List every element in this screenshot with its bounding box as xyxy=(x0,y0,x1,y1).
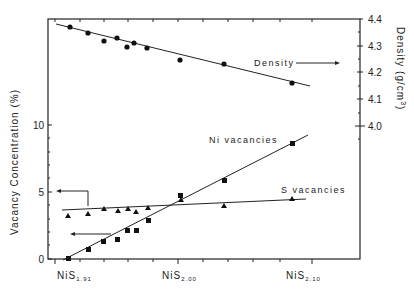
right-tick-4.1: 4.1 xyxy=(368,94,382,105)
left-axis-labels: 0 5 10 xyxy=(33,120,45,265)
x-label-nis-1.91: NiS1.91 xyxy=(57,270,92,282)
ni-vacancies-label: Ni vacancies xyxy=(209,135,278,145)
density-arrow-icon xyxy=(296,61,340,65)
right-tick-4.2: 4.2 xyxy=(368,67,382,78)
plot-frame xyxy=(48,19,360,259)
left-axis-title: Vacancy Concentration (%) xyxy=(9,89,20,235)
vacancy-density-chart: 0 5 10 Vacancy Concentration (%) 4.4 4.3… xyxy=(0,0,414,293)
left-tick-0: 0 xyxy=(38,254,44,265)
density-label: Density xyxy=(254,58,295,68)
x-label-nis-2.00: NiS2.00 xyxy=(162,270,197,282)
right-tick-4.3: 4.3 xyxy=(368,41,382,52)
left-tick-10: 10 xyxy=(33,120,45,131)
x-axis-ticks xyxy=(55,259,312,264)
ni-vacancies-axis-arrow-icon xyxy=(70,232,111,236)
right-tick-4.0: 4.0 xyxy=(368,121,382,132)
s-vacancies-fit-line xyxy=(62,199,306,210)
x-label-nis-2.10: NiS2.10 xyxy=(286,270,321,282)
left-tick-5: 5 xyxy=(38,187,44,198)
ni-vacancies-fit-line xyxy=(63,135,308,260)
density-fit-line xyxy=(56,24,310,86)
x-axis-labels: NiS1.91 NiS2.00 NiS2.10 xyxy=(57,270,321,282)
right-tick-4.4: 4.4 xyxy=(368,14,382,25)
s-vacancies-points xyxy=(65,196,295,218)
s-vacancies-label: S vacancies xyxy=(281,185,346,195)
s-vacancies-axis-arrow-icon xyxy=(56,189,88,206)
right-axis-labels: 4.4 4.3 4.2 4.1 4.0 xyxy=(368,14,382,132)
right-axis-title: Density (g/cm3) xyxy=(395,27,407,110)
